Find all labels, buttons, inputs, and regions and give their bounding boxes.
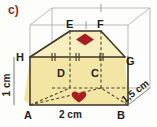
vertex-label-G: G <box>126 56 135 67</box>
prism-face-top <box>30 31 125 57</box>
box-edge-depth-topright <box>128 8 150 25</box>
part-label: c) <box>8 4 19 16</box>
prism-face-left-sliver <box>24 57 30 105</box>
dimension-label-height: 1 cm <box>2 74 12 97</box>
vertex-label-C: C <box>91 68 99 79</box>
geometry-figure: c) E F H G D C A B 1 cm 2 cm 1,5 cm <box>0 0 157 127</box>
vertex-label-D: D <box>57 68 65 79</box>
vertex-label-B: B <box>117 110 125 121</box>
vertex-label-F: F <box>97 19 104 30</box>
dimension-label-width: 2 cm <box>59 110 82 120</box>
vertex-label-H: H <box>16 52 24 63</box>
vertex-label-E: E <box>66 19 73 30</box>
box-edge-depth-topleft <box>30 8 52 25</box>
vertex-label-A: A <box>24 110 32 121</box>
